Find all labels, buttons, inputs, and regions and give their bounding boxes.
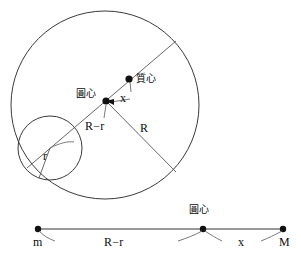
- axis-label-m: m: [33, 236, 42, 248]
- r-minus-r-leader: [104, 105, 106, 118]
- large-circle: [11, 11, 199, 199]
- axis-dot-m: [35, 226, 41, 232]
- mass-center-label: 質心: [136, 74, 156, 84]
- axis-leader-center-right: [205, 231, 222, 241]
- radius-R-label: R: [140, 122, 148, 134]
- physics-diagram: 圓心 質心 x R r R−r 圓心 m M R−r x: [0, 0, 301, 253]
- radius-R-line: [106, 101, 176, 172]
- circle-center-dot: [102, 97, 109, 104]
- circle-center-label: 圓心: [76, 89, 96, 99]
- axis-segment-right-label: x: [238, 236, 244, 248]
- separation-label: R−r: [85, 120, 104, 132]
- axis-segment-left-label: R−r: [104, 236, 123, 248]
- offset-x-label: x: [120, 92, 126, 104]
- axis-center-label: 圓心: [189, 205, 209, 215]
- diagram-canvas: [0, 0, 301, 253]
- radius-r-label: r: [43, 150, 47, 162]
- mass-center-dot: [125, 75, 132, 82]
- mass-center-leader: [130, 82, 131, 92]
- axis-leader-center-left: [178, 231, 202, 241]
- axis-label-M: M: [279, 236, 290, 248]
